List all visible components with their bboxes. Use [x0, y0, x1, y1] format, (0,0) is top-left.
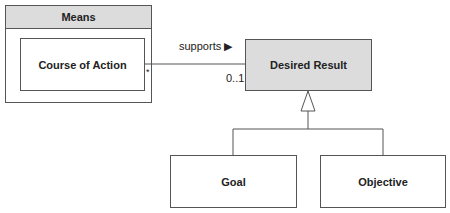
generalization-arrow-icon [301, 91, 315, 111]
objective-class[interactable]: Objective [320, 155, 446, 208]
association-label: supports ▶ [179, 40, 232, 53]
source-multiplicity: * [146, 67, 150, 77]
desired-result-class[interactable]: Desired Result [245, 39, 372, 91]
package-title: Means [61, 11, 95, 23]
course-of-action-class[interactable]: Course of Action [20, 38, 145, 91]
means-package-header: Means [5, 5, 152, 29]
target-multiplicity: 0..1 [226, 72, 244, 84]
goal-class[interactable]: Goal [170, 155, 297, 208]
